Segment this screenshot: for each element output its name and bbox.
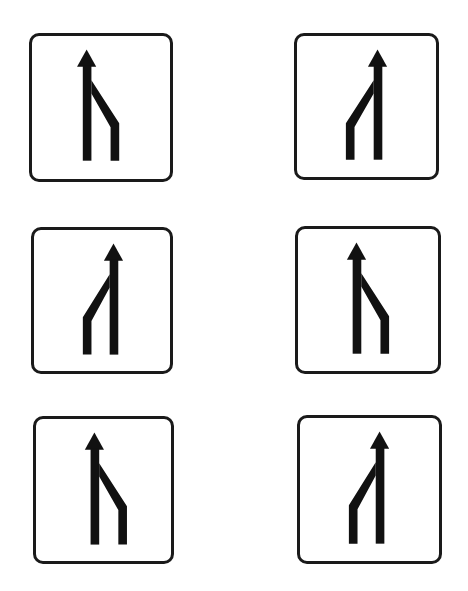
lane-ends-sign-right — [295, 226, 441, 374]
merge-right-lane-icon — [298, 229, 438, 371]
merge-right-lane-icon — [32, 36, 170, 179]
lane-ends-sign-left — [31, 227, 173, 374]
lane-ends-sign-right — [29, 33, 173, 182]
lane-ends-sign-left — [294, 33, 439, 180]
merge-left-lane-icon — [297, 36, 436, 177]
merge-left-lane-icon — [300, 418, 439, 561]
merge-left-lane-icon — [34, 230, 170, 371]
lane-ends-sign-left — [297, 415, 442, 564]
merge-right-lane-icon — [36, 419, 171, 561]
lane-ends-sign-right — [33, 416, 174, 564]
